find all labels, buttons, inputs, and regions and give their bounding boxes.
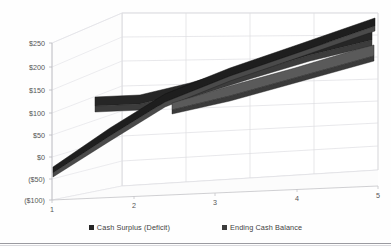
y-tick-label: $0 <box>37 153 45 162</box>
y-tick-label: $250 <box>29 39 45 48</box>
x-tick-label: 2 <box>132 201 136 210</box>
legend-label: Cash Surplus (Deficit) <box>97 223 170 232</box>
y-tick-label: $200 <box>29 63 45 72</box>
legend-swatch-icon <box>222 225 227 230</box>
legend-item-ending-cash-balance[interactable]: Ending Cash Balance <box>222 223 302 232</box>
y-tick-labels: $250 $200 $150 $100 $50 $0 ($50) ($100) <box>24 39 45 205</box>
legend-swatch-icon <box>89 225 94 230</box>
legend-label: Ending Cash Balance <box>230 223 302 232</box>
y-tick-label: $100 <box>29 109 45 118</box>
x-tick-label: 4 <box>295 194 299 203</box>
y-tick-label: ($100) <box>24 196 45 205</box>
x-tick-label: 3 <box>213 198 217 207</box>
x-tick-label: 1 <box>50 205 54 214</box>
legend-item-cash-surplus-deficit[interactable]: Cash Surplus (Deficit) <box>89 223 170 232</box>
y-axis <box>49 43 52 200</box>
chart-container: $250 $200 $150 $100 $50 $0 ($50) ($100) … <box>0 0 391 248</box>
footer-divider-secondary <box>0 245 391 246</box>
y-tick-label: ($50) <box>28 175 45 184</box>
three-d-line-chart: $250 $200 $150 $100 $50 $0 ($50) ($100) … <box>0 0 391 248</box>
chart-legend: Cash Surplus (Deficit) Ending Cash Balan… <box>0 218 391 236</box>
footer-divider <box>0 243 391 244</box>
y-tick-label: $150 <box>29 86 45 95</box>
y-tick-label: $50 <box>33 131 45 140</box>
x-tick-label: 5 <box>376 191 380 200</box>
